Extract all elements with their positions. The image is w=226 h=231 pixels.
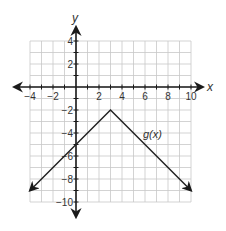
x-tick-label: 2 [96,91,102,102]
coordinate-plane: −4−224681042−2−4−6−8−10 x y g(x) [0,0,226,231]
x-tick-label: −4 [24,91,36,102]
x-tick-label: 6 [142,91,148,102]
x-tick-label: 8 [165,91,171,102]
y-tick-label: −4 [62,128,74,139]
x-tick-label: 4 [119,91,125,102]
y-tick-label: −2 [62,105,74,116]
axes [14,27,203,217]
x-tick-label: 10 [185,91,197,102]
y-tick-label: −8 [62,174,74,185]
y-tick-label: −10 [56,197,73,208]
x-tick-label: −2 [47,91,59,102]
y-axis-label: y [71,11,79,25]
y-tick-label: 2 [67,59,73,70]
x-axis-label: x [206,80,214,94]
y-tick-label: 4 [67,36,73,47]
curve-label: g(x) [143,128,162,140]
grid-lines [30,41,191,202]
